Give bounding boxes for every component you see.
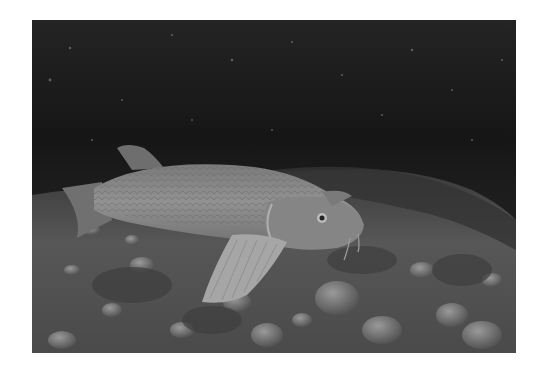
underwater-scene — [32, 20, 516, 353]
fish-photo — [32, 20, 516, 353]
